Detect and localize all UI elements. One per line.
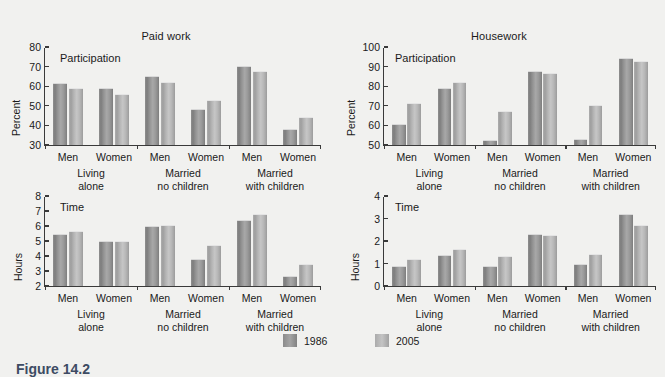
- category-label-4: Men: [578, 292, 598, 304]
- x-axis-tick-0: [384, 286, 385, 290]
- plot-area-housework-time: 01234MenWomenMenWomenMenWomenLivingalone…: [383, 197, 655, 287]
- category-label-3: Women: [188, 151, 224, 163]
- y-tick-4: 4: [35, 250, 45, 262]
- bar-2005-women-3: [543, 73, 557, 145]
- panel-title-paid-work: Paid work: [0, 30, 332, 42]
- x-axis-tick-6: [655, 286, 656, 290]
- panel-housework-participation: Housework Percent Participation 50607080…: [333, 28, 665, 178]
- bar-2005-men-4: [589, 254, 603, 286]
- category-label-1: Women: [434, 151, 470, 163]
- legend-2005: 2005: [375, 334, 419, 347]
- x-axis-tick-6: [320, 286, 321, 290]
- bar-1986-women-5: [619, 214, 633, 286]
- x-axis-tick-0: [45, 145, 46, 149]
- y-tick-5: 5: [35, 235, 45, 247]
- category-label-1: Women: [96, 292, 132, 304]
- x-axis-tick-4: [565, 286, 566, 290]
- bar-1986-men-2: [483, 266, 497, 286]
- category-label-2: Men: [487, 292, 507, 304]
- y-tick-70: 70: [29, 61, 45, 73]
- bar-2005-women-1: [453, 82, 467, 145]
- bar-1986-men-4: [574, 264, 588, 287]
- bar-2005-women-5: [634, 225, 648, 286]
- category-label-3: Women: [525, 151, 561, 163]
- y-tick-80: 80: [368, 80, 384, 92]
- x-axis-tick-4: [565, 145, 566, 149]
- y-axis-label-hours: Hours: [12, 253, 24, 281]
- group-label-1: Marriedno children: [157, 308, 208, 333]
- x-axis-tick-6: [320, 145, 321, 149]
- y-tick-90: 90: [368, 61, 384, 73]
- x-axis-tick-2: [475, 286, 476, 290]
- bar-2005-women-1: [453, 249, 467, 286]
- bar-1986-women-1: [99, 241, 113, 286]
- group-label-2: Marriedwith children: [581, 308, 639, 333]
- category-label-4: Men: [242, 292, 262, 304]
- x-axis-tick-4: [229, 145, 230, 149]
- category-label-0: Men: [396, 151, 416, 163]
- bar-1986-women-5: [283, 129, 297, 145]
- y-tick-60: 60: [29, 80, 45, 92]
- x-axis-tick-0: [384, 145, 385, 149]
- category-label-5: Women: [615, 151, 651, 163]
- bar-1986-women-3: [528, 71, 542, 145]
- category-label-0: Men: [396, 292, 416, 304]
- category-label-0: Men: [58, 292, 78, 304]
- bar-1986-men-4: [574, 139, 588, 145]
- panel-paid-work-time: Hours Time 2345678MenWomenMenWomenMenWom…: [0, 183, 332, 333]
- y-axis-label-hours: Hours: [349, 253, 361, 281]
- bar-1986-women-1: [438, 88, 452, 145]
- legend-swatch-2005: [375, 334, 389, 347]
- y-tick-100: 100: [362, 41, 384, 53]
- bar-1986-women-3: [191, 109, 205, 145]
- y-tick-3: 3: [374, 213, 384, 225]
- bar-2005-men-4: [589, 105, 603, 145]
- plot-area-paid-work-time: 2345678MenWomenMenWomenMenWomenLivingalo…: [44, 197, 320, 287]
- x-axis-tick-0: [45, 286, 46, 290]
- category-label-0: Men: [58, 151, 78, 163]
- legend-label-1986: 1986: [304, 335, 327, 347]
- bar-2005-women-1: [115, 241, 129, 286]
- bar-2005-women-3: [207, 100, 221, 145]
- x-axis-tick-2: [475, 145, 476, 149]
- category-label-4: Men: [578, 151, 598, 163]
- bar-2005-women-5: [634, 61, 648, 145]
- category-label-1: Women: [434, 292, 470, 304]
- bar-1986-men-2: [145, 226, 159, 286]
- x-axis-tick-6: [655, 145, 656, 149]
- y-tick-1: 1: [374, 258, 384, 270]
- y-tick-2: 2: [35, 280, 45, 292]
- bar-1986-men-0: [392, 266, 406, 286]
- y-tick-6: 6: [35, 220, 45, 232]
- bar-2005-women-5: [299, 264, 313, 287]
- y-tick-40: 40: [29, 119, 45, 131]
- bar-1986-women-1: [438, 255, 452, 286]
- y-tick-7: 7: [35, 205, 45, 217]
- bar-1986-men-0: [53, 83, 67, 145]
- plot-area-housework-participation: 5060708090100MenWomenMenWomenMenWomenLiv…: [383, 48, 655, 146]
- panel-housework-time: Hours Time 01234MenWomenMenWomenMenWomen…: [333, 183, 665, 333]
- y-axis-label-percent: Percent: [10, 100, 22, 136]
- y-axis-label-percent: Percent: [345, 100, 357, 136]
- x-axis-tick-2: [137, 145, 138, 149]
- bar-2005-men-4: [253, 214, 267, 286]
- x-axis-tick-2: [137, 286, 138, 290]
- y-tick-50: 50: [29, 100, 45, 112]
- category-label-1: Women: [96, 151, 132, 163]
- y-tick-50: 50: [368, 139, 384, 151]
- y-tick-80: 80: [29, 41, 45, 53]
- panel-paid-work-participation: Paid work Percent Participation 30405060…: [0, 28, 332, 178]
- bar-2005-men-2: [498, 111, 512, 145]
- bar-1986-women-5: [619, 58, 633, 145]
- bar-1986-men-2: [145, 76, 159, 145]
- bar-2005-men-0: [407, 259, 421, 286]
- category-label-5: Women: [280, 292, 316, 304]
- bar-2005-women-3: [207, 245, 221, 286]
- category-label-5: Women: [615, 292, 651, 304]
- bar-2005-men-0: [69, 231, 83, 286]
- category-label-2: Men: [487, 151, 507, 163]
- category-label-3: Women: [525, 292, 561, 304]
- y-tick-8: 8: [35, 190, 45, 202]
- bar-2005-men-0: [407, 103, 421, 145]
